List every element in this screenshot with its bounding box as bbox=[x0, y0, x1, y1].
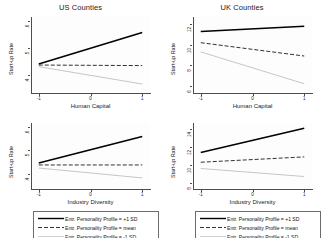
y-axis-label-uk-id: Start-up Rate bbox=[170, 138, 176, 178]
x-tick-label: 1 bbox=[303, 192, 306, 197]
legend-label: Entr. Personality Profile = mean bbox=[65, 225, 136, 231]
x-tick-label: -1 bbox=[37, 192, 41, 197]
y-tick-label: 6 bbox=[187, 85, 192, 97]
legend-label: Entr. Personality Profile = +1 SD bbox=[227, 216, 299, 222]
plot-area-uk-id bbox=[193, 123, 312, 189]
legend-row[interactable]: Entr. Personality Profile = -1 SD bbox=[199, 232, 317, 238]
series-line-plus1sd bbox=[39, 32, 142, 63]
y-tick-label: 14 bbox=[187, 129, 192, 141]
solid-line-key bbox=[37, 214, 65, 223]
panel-us-human-capital: US Counties Start-up Rate Human Capital … bbox=[0, 0, 161, 115]
y-tick-label: 8 bbox=[187, 65, 192, 77]
legend-label: Entr. Personality Profile = -1 SD bbox=[227, 234, 298, 239]
y-tick-label: 10 bbox=[187, 44, 192, 56]
x-tick-label: 1 bbox=[141, 192, 144, 197]
x-axis-label-us-id: Industry Diversity bbox=[31, 199, 150, 205]
x-axis-label-uk-id: Industry Diversity bbox=[193, 199, 312, 205]
y-tick-label: .5 bbox=[25, 48, 30, 60]
legend-label: Entr. Personality Profile = mean bbox=[227, 225, 298, 231]
figure-grid: US Counties Start-up Rate Human Capital … bbox=[0, 0, 323, 238]
lines-us-id bbox=[31, 123, 150, 189]
series-line-mean bbox=[39, 65, 142, 66]
plot-area-us-id bbox=[31, 123, 150, 189]
series-line-plus1sd bbox=[201, 128, 304, 152]
y-axis-label-us-id: Start-up Rate bbox=[8, 138, 14, 178]
plot-area-us-hc bbox=[31, 17, 150, 93]
series-line-mean bbox=[201, 43, 304, 56]
series-line-minus1sd bbox=[201, 168, 304, 176]
series-line-plus1sd bbox=[39, 136, 142, 163]
x-tick-label: 0 bbox=[251, 192, 254, 197]
y-axis-label-us-hc: Start-up Rate bbox=[8, 35, 14, 75]
x-tick-label: -1 bbox=[37, 96, 41, 101]
lines-us-hc bbox=[31, 17, 150, 93]
dashed-line-key bbox=[199, 223, 227, 232]
dashed-line-key bbox=[37, 223, 65, 232]
panel-title-uk: UK Counties bbox=[161, 3, 323, 12]
legend-row[interactable]: Entr. Personality Profile = mean bbox=[199, 223, 317, 232]
panel-us-industry-diversity: Start-up Rate Industry Diversity Entr. P… bbox=[0, 115, 161, 238]
y-axis-line-us-hc bbox=[31, 17, 32, 93]
light-line-key bbox=[37, 232, 65, 238]
panel-title-us: US Counties bbox=[0, 3, 161, 12]
x-tick-label: 1 bbox=[303, 96, 306, 101]
series-line-minus1sd bbox=[39, 168, 142, 178]
y-axis-line-us-id bbox=[31, 123, 32, 189]
series-line-mean bbox=[201, 157, 304, 162]
x-tick-label: -1 bbox=[199, 192, 203, 197]
y-tick-label: 12 bbox=[187, 147, 192, 159]
panel-uk-human-capital: UK Counties Start-up Rate Human Capital … bbox=[161, 0, 323, 115]
series-line-minus1sd bbox=[39, 67, 142, 84]
legend-label: Entr. Personality Profile = -1 SD bbox=[65, 234, 136, 239]
x-tick-label: 0 bbox=[251, 96, 254, 101]
panel-uk-industry-diversity: Start-up Rate Industry Diversity Entr. P… bbox=[161, 115, 323, 238]
y-tick-label: 10 bbox=[187, 164, 192, 176]
x-tick-label: 0 bbox=[89, 192, 92, 197]
legend-row[interactable]: Entr. Personality Profile = mean bbox=[37, 223, 155, 232]
solid-line-key bbox=[199, 214, 227, 223]
legend-row[interactable]: Entr. Personality Profile = -1 SD bbox=[37, 232, 155, 238]
y-tick-label: 8 bbox=[187, 182, 192, 194]
series-line-plus1sd bbox=[201, 26, 304, 31]
plot-area-uk-hc bbox=[193, 17, 312, 93]
x-tick-label: -1 bbox=[199, 96, 203, 101]
y-axis-line-uk-id bbox=[193, 123, 194, 189]
y-tick-label: .6 bbox=[25, 21, 30, 33]
x-axis-label-us-hc: Human Capital bbox=[31, 103, 150, 109]
light-line-key bbox=[199, 232, 227, 238]
y-axis-label-uk-hc: Start-up Rate bbox=[170, 35, 176, 75]
y-tick-label: .4 bbox=[25, 173, 30, 185]
legend-label: Entr. Personality Profile = +1 SD bbox=[65, 216, 137, 222]
y-tick-label: 12 bbox=[187, 24, 192, 36]
lines-uk-id bbox=[193, 123, 312, 189]
y-tick-label: .4 bbox=[25, 75, 30, 87]
series-line-minus1sd bbox=[201, 52, 304, 84]
y-tick-label: .5 bbox=[25, 150, 30, 162]
y-tick-label: .6 bbox=[25, 126, 30, 138]
x-axis-label-uk-hc: Human Capital bbox=[193, 103, 312, 109]
legend-row[interactable]: Entr. Personality Profile = +1 SD bbox=[37, 214, 155, 223]
x-tick-label: 0 bbox=[89, 96, 92, 101]
legend-row[interactable]: Entr. Personality Profile = +1 SD bbox=[199, 214, 317, 223]
y-axis-line-uk-hc bbox=[193, 17, 194, 93]
lines-uk-hc bbox=[193, 17, 312, 93]
x-tick-label: 1 bbox=[141, 96, 144, 101]
legend-us: Entr. Personality Profile = +1 SD Entr. … bbox=[33, 211, 159, 238]
legend-uk: Entr. Personality Profile = +1 SD Entr. … bbox=[195, 211, 321, 238]
